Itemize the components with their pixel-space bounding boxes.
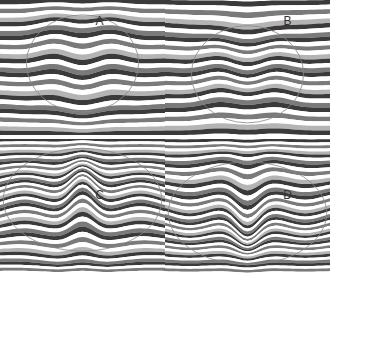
panel-d-stripes: [165, 139, 330, 274]
panel-label-c: C: [17, 188, 182, 202]
panel-label-a: A: [17, 14, 182, 28]
panel-label-d: D: [205, 188, 370, 202]
panel-c-stripes: [0, 139, 165, 274]
panel-label-b: B: [205, 14, 370, 28]
figure: ABCD: [0, 0, 383, 278]
